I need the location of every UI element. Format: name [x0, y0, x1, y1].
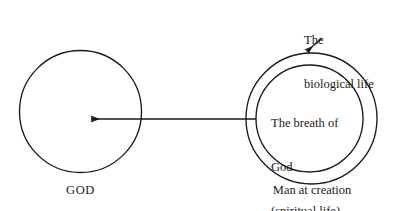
breath-of-god-line-3: (spiritual life) — [271, 204, 363, 211]
diagram-canvas: GOD Man at creation The biological life … — [0, 0, 402, 211]
breath-of-god-line-1: The breath of — [271, 116, 363, 131]
breath-of-god-line-2: God — [271, 160, 363, 175]
breath-of-god-label: The breath of God (spiritual life) — [271, 86, 363, 211]
biological-life-line-1: The — [304, 33, 400, 48]
god-label: GOD — [0, 183, 161, 198]
